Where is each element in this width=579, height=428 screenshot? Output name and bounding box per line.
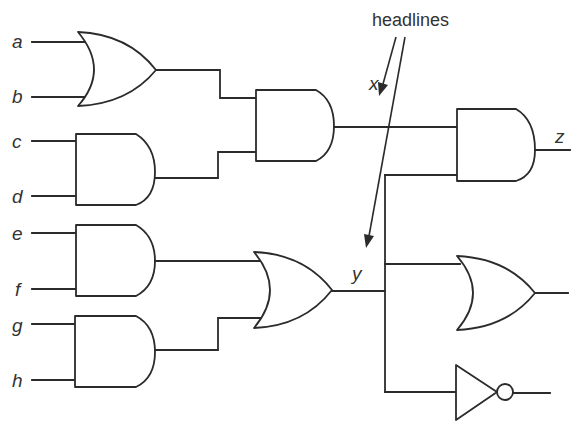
- and-gate-z: [457, 109, 535, 181]
- arrowhead-y: [364, 234, 374, 248]
- and-gate-ef: [76, 225, 155, 296]
- and-gate-x: [256, 90, 334, 161]
- logic-circuit-diagram: a b c d e f g h x y z: [0, 0, 579, 428]
- or-gate-y: [254, 252, 332, 328]
- input-label-a: a: [12, 31, 23, 52]
- input-label-b: b: [12, 86, 23, 107]
- not-bubble: [497, 384, 513, 400]
- input-label-c: c: [12, 131, 22, 152]
- or-gate-ab: [78, 32, 156, 106]
- input-label-e: e: [12, 223, 23, 244]
- and-gate-cd: [76, 134, 155, 205]
- input-label-h: h: [12, 370, 23, 391]
- input-label-d: d: [12, 186, 24, 207]
- input-label-g: g: [12, 315, 23, 336]
- not-gate: [456, 365, 497, 420]
- layer1-to-layer2-wires: [155, 70, 266, 350]
- and-gate-gh: [75, 316, 155, 387]
- arrowhead-x: [378, 82, 388, 96]
- output-label-z: z: [554, 126, 565, 147]
- or-gate-output: [457, 256, 535, 330]
- label-y: y: [350, 263, 363, 284]
- input-label-f: f: [15, 279, 22, 300]
- headlines-annotation: headlines: [372, 10, 449, 30]
- headline-arrow-to-x: [378, 37, 396, 96]
